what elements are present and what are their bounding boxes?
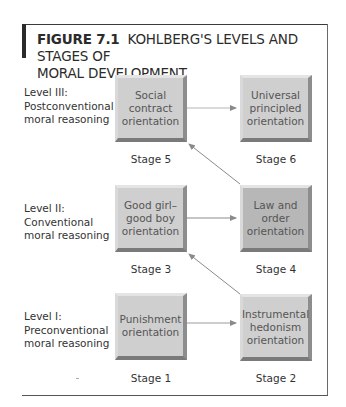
arrow-stage2-to-stage3 bbox=[189, 254, 240, 294]
stage-5-label: Stage 5 bbox=[115, 153, 187, 165]
stage-3-text-2: good boy bbox=[119, 212, 182, 225]
stage-4-text-3: orientation bbox=[244, 225, 307, 238]
stage-1-text-2: orientation bbox=[117, 326, 185, 339]
stage-5-text-2: contract bbox=[119, 102, 182, 115]
stage-2-text-3: orientation bbox=[239, 334, 312, 347]
stage-3-label: Stage 3 bbox=[115, 263, 187, 275]
stage-1-label: Stage 1 bbox=[115, 372, 187, 384]
stage-4-label: Stage 4 bbox=[240, 263, 312, 275]
stage-6-text-2: principled bbox=[244, 102, 307, 115]
stage-6-label: Stage 6 bbox=[240, 153, 312, 165]
print-speck bbox=[76, 378, 79, 379]
stage-6-box: Universal principled orientation bbox=[240, 75, 312, 142]
stage-4-box: Law and order orientation bbox=[240, 185, 312, 252]
stage-3-text-3: orientation bbox=[119, 225, 182, 238]
stage-5-box: Social contract orientation bbox=[115, 75, 187, 142]
stage-5-text-3: orientation bbox=[119, 115, 182, 128]
stage-2-text-2: hedonism bbox=[239, 321, 312, 334]
stage-6-text-1: Universal bbox=[244, 89, 307, 102]
stage-3-text-1: Good girl– bbox=[119, 199, 182, 212]
stage-2-label: Stage 2 bbox=[240, 372, 312, 384]
stage-4-text-2: order bbox=[244, 212, 307, 225]
stage-2-box: Instrumental hedonism orientation bbox=[240, 294, 312, 361]
arrow-stage4-to-stage5 bbox=[189, 144, 240, 184]
stage-4-text-1: Law and bbox=[244, 199, 307, 212]
stage-6-text-3: orientation bbox=[244, 115, 307, 128]
stage-2-text-1: Instrumental bbox=[239, 308, 312, 321]
stage-3-box: Good girl– good boy orientation bbox=[115, 185, 187, 252]
stage-1-text-1: Punishment bbox=[117, 313, 185, 326]
stage-1-box: Punishment orientation bbox=[115, 293, 187, 360]
stage-5-text-1: Social bbox=[119, 89, 182, 102]
